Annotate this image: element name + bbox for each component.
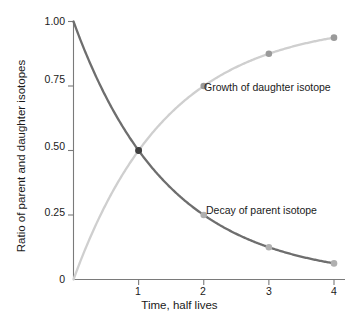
y-tick-label-3: 0.50 bbox=[31, 141, 65, 152]
series-group bbox=[74, 22, 335, 280]
growth-data-point-3 bbox=[266, 50, 273, 57]
x-axis-title: Time, half lives bbox=[0, 299, 359, 311]
growth-curve bbox=[74, 38, 335, 280]
chart-plot-area bbox=[0, 0, 359, 321]
y-tick-label-2: 0.75 bbox=[31, 74, 65, 85]
y-tick-label-1: 1.00 bbox=[31, 16, 65, 27]
chart-figure: 1.00 0.75 0.50 0.25 0 1 2 3 4 Time, half… bbox=[0, 0, 359, 321]
y-tick-label-4: 0.25 bbox=[31, 207, 65, 218]
growth-data-point-4 bbox=[331, 34, 338, 41]
y-axis-title: Ratio of parent and daughter isotopes bbox=[15, 11, 27, 301]
curve-intersection-point bbox=[135, 147, 142, 154]
decay-curve bbox=[74, 22, 335, 264]
x-tick-label-4: 4 bbox=[322, 286, 346, 297]
decay-data-point-3 bbox=[266, 244, 273, 251]
markers-group bbox=[135, 34, 337, 266]
annotation-decay-of-parent-isotope: Decay of parent isotope bbox=[206, 205, 317, 216]
axes-group bbox=[68, 21, 345, 285]
x-tick-label-2: 2 bbox=[191, 286, 215, 297]
x-tick-label-1: 1 bbox=[126, 286, 150, 297]
decay-data-point-4 bbox=[331, 260, 338, 267]
y-tick-label-5: 0 bbox=[31, 274, 65, 285]
x-tick-label-3: 3 bbox=[257, 286, 281, 297]
annotation-growth-of-daughter-isotope: Growth of daughter isotope bbox=[204, 82, 331, 93]
